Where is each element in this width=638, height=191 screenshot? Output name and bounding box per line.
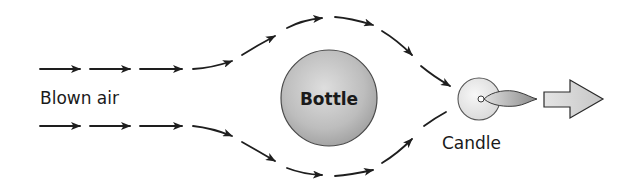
curved-stream-line [424,112,446,126]
curved-arrow-icon [287,18,322,28]
lower-air-stream [40,112,446,176]
bottle-label: Bottle [300,89,358,109]
outflow-arrow-icon [544,80,603,118]
candle-label: Candle [442,133,501,153]
bottle: Bottle [281,50,377,146]
curved-arrow-icon [335,170,373,176]
curved-arrow-icon [382,31,412,55]
curved-arrow-icon [242,36,275,55]
curved-arrow-icon [242,142,275,161]
upper-air-stream [40,17,450,86]
candle: Candle [442,78,537,153]
blown-air-label: Blown air [40,88,119,108]
curved-arrow-icon [193,126,232,136]
curved-arrow-icon [193,61,232,69]
wick-icon [478,96,484,102]
curved-arrow-icon [382,139,412,163]
curved-arrow-icon [421,66,450,86]
airflow-diagram: Blown air Bottle Candle [0,0,638,191]
curved-arrow-icon [335,17,373,25]
curved-arrow-icon [287,168,322,175]
